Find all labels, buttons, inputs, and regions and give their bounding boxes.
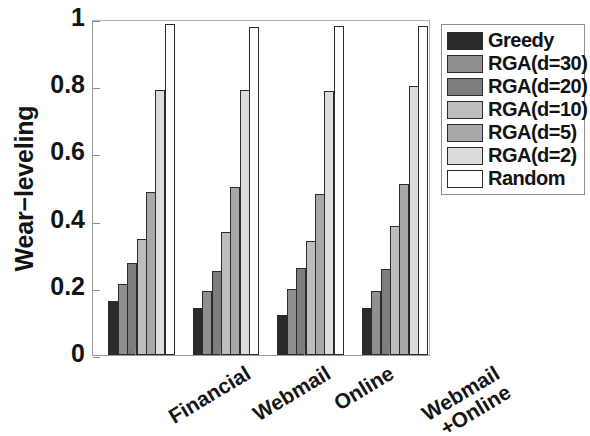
legend-item: RGA(d=30) bbox=[447, 52, 580, 75]
y-tick-label: 0.8 bbox=[50, 70, 85, 99]
x-tick-label: Online bbox=[331, 362, 398, 414]
y-tick-label: 1 bbox=[71, 3, 85, 32]
bar-group bbox=[193, 21, 259, 355]
y-tick-label: 0.4 bbox=[50, 205, 85, 234]
legend-label: RGA(d=5) bbox=[488, 121, 577, 144]
bar bbox=[165, 24, 175, 355]
legend-label: Greedy bbox=[488, 29, 554, 52]
bar-group bbox=[362, 21, 428, 355]
legend-item: RGA(d=5) bbox=[447, 121, 580, 144]
y-tick-label: 0.2 bbox=[50, 272, 85, 301]
legend-item: RGA(d=20) bbox=[447, 75, 580, 98]
y-tick-mark bbox=[93, 155, 100, 156]
legend-swatch bbox=[447, 147, 483, 165]
x-tick-mark bbox=[389, 349, 390, 355]
legend-label: RGA(d=20) bbox=[488, 75, 587, 98]
x-tick-label: Webmail+Online bbox=[418, 362, 514, 436]
x-tick-mark bbox=[220, 349, 221, 355]
legend-swatch bbox=[447, 101, 483, 119]
x-tick-mark bbox=[135, 349, 136, 355]
bar-chart-figure: Wear−leveling 00.20.40.60.81 FinancialWe… bbox=[0, 0, 590, 436]
legend-label: Random bbox=[488, 167, 565, 190]
legend-swatch bbox=[447, 55, 483, 73]
bar bbox=[334, 26, 344, 355]
bar-group bbox=[108, 21, 174, 355]
legend: GreedyRGA(d=30)RGA(d=20)RGA(d=10)RGA(d=5… bbox=[441, 24, 585, 195]
y-tick-mark bbox=[93, 21, 100, 22]
y-tick-mark bbox=[93, 223, 100, 224]
y-axis-title: Wear−leveling bbox=[10, 39, 39, 339]
legend-label: RGA(d=10) bbox=[488, 98, 587, 121]
legend-item: RGA(d=2) bbox=[447, 144, 580, 167]
legend-label: RGA(d=30) bbox=[488, 52, 587, 75]
x-tick-mark bbox=[304, 349, 305, 355]
legend-item: Greedy bbox=[447, 29, 580, 52]
x-tick-label: Financial bbox=[165, 362, 254, 427]
legend-item: Random bbox=[447, 167, 580, 190]
plot-area bbox=[92, 20, 430, 356]
bar bbox=[249, 27, 259, 355]
y-tick-label: 0 bbox=[71, 339, 85, 368]
x-tick-label: Webmail bbox=[249, 362, 334, 425]
bar-group bbox=[277, 21, 343, 355]
y-tick-mark bbox=[93, 290, 100, 291]
y-tick-label: 0.6 bbox=[50, 137, 85, 166]
y-tick-mark bbox=[93, 357, 100, 358]
legend-swatch bbox=[447, 32, 483, 50]
plot-inner bbox=[93, 21, 429, 355]
legend-item: RGA(d=10) bbox=[447, 98, 580, 121]
legend-swatch bbox=[447, 124, 483, 142]
bar bbox=[418, 26, 428, 355]
y-tick-mark bbox=[93, 88, 100, 89]
legend-label: RGA(d=2) bbox=[488, 144, 577, 167]
legend-swatch bbox=[447, 170, 483, 188]
legend-swatch bbox=[447, 78, 483, 96]
